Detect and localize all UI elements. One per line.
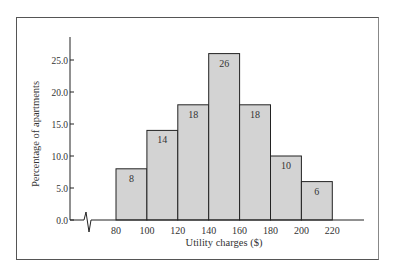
- x-axis-label: Utility charges ($): [186, 237, 263, 249]
- y-tick-label: 25.0: [51, 56, 68, 66]
- y-tick-label: 5.0: [56, 184, 68, 194]
- bar-value-label: 26: [219, 58, 229, 69]
- histogram-chart: 8141826181060.05.010.015.020.025.0801001…: [0, 0, 400, 276]
- bar-value-label: 14: [157, 134, 167, 145]
- x-tick-label: 120: [170, 225, 185, 236]
- y-tick-label: 20.0: [51, 88, 68, 98]
- x-tick-label: 100: [139, 225, 154, 236]
- y-tick-label: 15.0: [51, 120, 68, 130]
- bar-value-label: 18: [250, 109, 260, 120]
- x-tick-label: 180: [263, 225, 278, 236]
- bar-value-label: 10: [281, 160, 291, 171]
- x-tick-label: 220: [325, 225, 340, 236]
- histogram-bar: [240, 105, 271, 220]
- bar-value-label: 6: [314, 186, 319, 197]
- bar-value-label: 8: [129, 173, 134, 184]
- y-tick-label: 10.0: [51, 152, 68, 162]
- x-tick-label: 80: [111, 225, 121, 236]
- bar-value-label: 18: [188, 109, 198, 120]
- y-axis-label: Percentage of apartments: [30, 81, 41, 187]
- y-tick-label: 0.0: [56, 216, 68, 226]
- x-tick-label: 140: [201, 225, 216, 236]
- x-tick-label: 200: [294, 225, 309, 236]
- histogram-bar: [178, 105, 209, 220]
- histogram-bar: [209, 54, 240, 220]
- x-tick-label: 160: [232, 225, 247, 236]
